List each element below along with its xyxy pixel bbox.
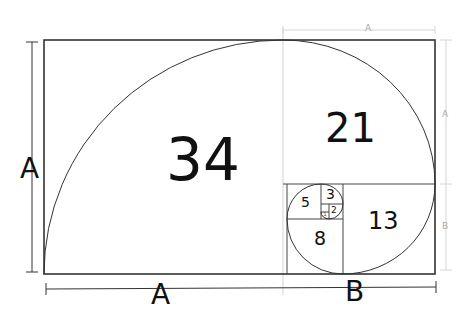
square-3-label: 3	[326, 187, 335, 201]
bottom-b-label: B	[345, 278, 364, 306]
bottom-dimension	[46, 281, 436, 295]
left-dimension-label: A	[20, 155, 39, 183]
square-21-label: 21	[325, 108, 376, 148]
square-1-label: 1	[323, 211, 327, 217]
top-a-label: A	[365, 24, 371, 33]
square-5-label: 5	[301, 195, 310, 209]
square-13-label: 13	[368, 209, 399, 233]
square-8-label: 8	[314, 229, 326, 248]
right-b-label: B	[442, 222, 448, 231]
bottom-a-label: A	[151, 281, 170, 309]
square-2-label: 2	[331, 206, 337, 215]
guide-lines	[283, 26, 452, 295]
right-a-label: A	[442, 110, 448, 119]
square-34-label: 34	[166, 131, 240, 189]
